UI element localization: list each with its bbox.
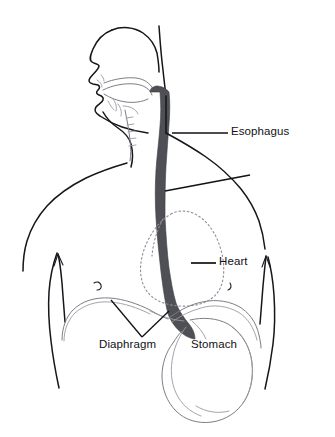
heart-group: [141, 211, 224, 306]
esophagus-leader-diagonal: [165, 175, 250, 191]
tongue-body-line: [104, 94, 148, 102]
anatomy-diagram-svg: [0, 0, 335, 437]
right-shoulder-line: [166, 133, 265, 249]
nasal-septum-line: [101, 75, 104, 81]
label-heart: Heart: [219, 256, 248, 268]
label-stomach: Stomach: [191, 339, 237, 351]
label-esophagus: Esophagus: [231, 126, 289, 138]
larynx-line: [118, 104, 121, 116]
hyoid-line: [108, 101, 114, 110]
right-arm-inner-line: [265, 257, 275, 389]
stomach-rugae-line: [196, 406, 229, 412]
head-profile-outline: [89, 30, 148, 133]
esophagus-tube: [150, 86, 195, 339]
diaphragm-leader-right: [142, 311, 169, 337]
stomach-group: [162, 318, 253, 422]
right-armpit-line: [260, 256, 266, 324]
label-diaphragm: Diaphragm: [99, 339, 156, 351]
left-arm-inner-line: [49, 253, 59, 388]
right-nipple-mark: [228, 283, 231, 290]
tongue-upper-line: [103, 84, 152, 95]
heart-outline: [141, 211, 224, 306]
skull-top-outline: [112, 28, 159, 72]
left-nipple-mark: [94, 282, 101, 290]
trachea-ring-1: [126, 117, 133, 118]
anatomy-figure: Esophagus Heart Diaphragm Stomach: [0, 0, 335, 437]
left-armpit-line: [58, 254, 65, 322]
oral-cavity-group: [97, 75, 153, 161]
head-profile-group: [89, 26, 166, 167]
back-of-neck-line: [159, 26, 166, 96]
diaphragm-left-dome-inner: [64, 302, 150, 341]
stomach-outline: [162, 318, 252, 422]
left-shoulder-line: [23, 163, 127, 271]
diaphragm-leader-left: [111, 300, 142, 337]
esophagus-group: [150, 86, 195, 339]
